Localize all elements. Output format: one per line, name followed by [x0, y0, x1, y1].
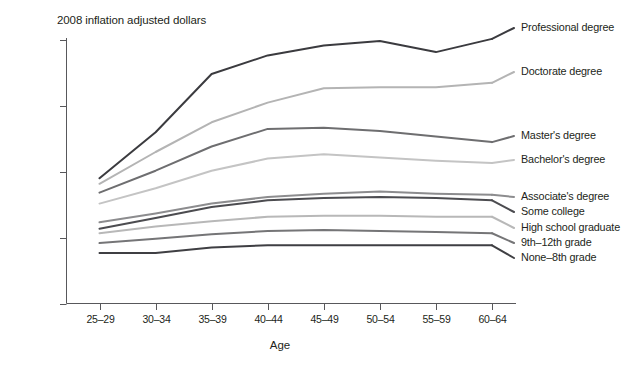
legend-label-7: High school graduate: [521, 221, 620, 233]
legend-label-8: 9th–12th grade: [521, 236, 592, 248]
legend-label-2: Doctorate degree: [521, 65, 602, 77]
legend-leader-line: [492, 136, 514, 142]
x-tick-label: 35–39: [183, 313, 243, 325]
chart-figure: 2008 inflation adjusted dollars $120,00$…: [0, 0, 638, 369]
x-tick-label: 45–49: [295, 313, 355, 325]
legend-leader-line: [492, 160, 514, 163]
series-line: [100, 230, 493, 243]
x-tick-label: 55–59: [407, 313, 467, 325]
legend-leader-line: [492, 233, 514, 243]
legend-label-1: Professional degree: [521, 21, 614, 33]
series-line: [100, 245, 493, 253]
legend-label-5: Associate's degree: [521, 190, 609, 202]
x-tick-label: 50–54: [351, 313, 411, 325]
x-tick-label: 60–64: [463, 313, 523, 325]
legend-leader-line: [492, 245, 514, 258]
x-tick-label: 25–29: [71, 313, 131, 325]
legend-label-6: Some college: [521, 205, 585, 217]
x-tick-label: 40–44: [239, 313, 299, 325]
legend-leader-line: [492, 28, 514, 39]
legend-label-9: None–8th grade: [521, 251, 596, 263]
series-lines: [100, 39, 493, 253]
x-tick-label: 30–34: [127, 313, 187, 325]
axis-lines: [67, 38, 517, 304]
y-axis-ticks: [60, 41, 67, 305]
legend-leader-line: [492, 72, 514, 83]
legend-leader-lines: [492, 28, 514, 258]
legend-leader-line: [492, 217, 514, 228]
legend-leader-line: [492, 195, 514, 197]
legend-label-4: Bachelor's degree: [521, 153, 605, 165]
legend-leader-line: [492, 200, 514, 212]
legend-label-3: Master's degree: [521, 129, 596, 141]
x-axis-ticks: [101, 304, 493, 311]
